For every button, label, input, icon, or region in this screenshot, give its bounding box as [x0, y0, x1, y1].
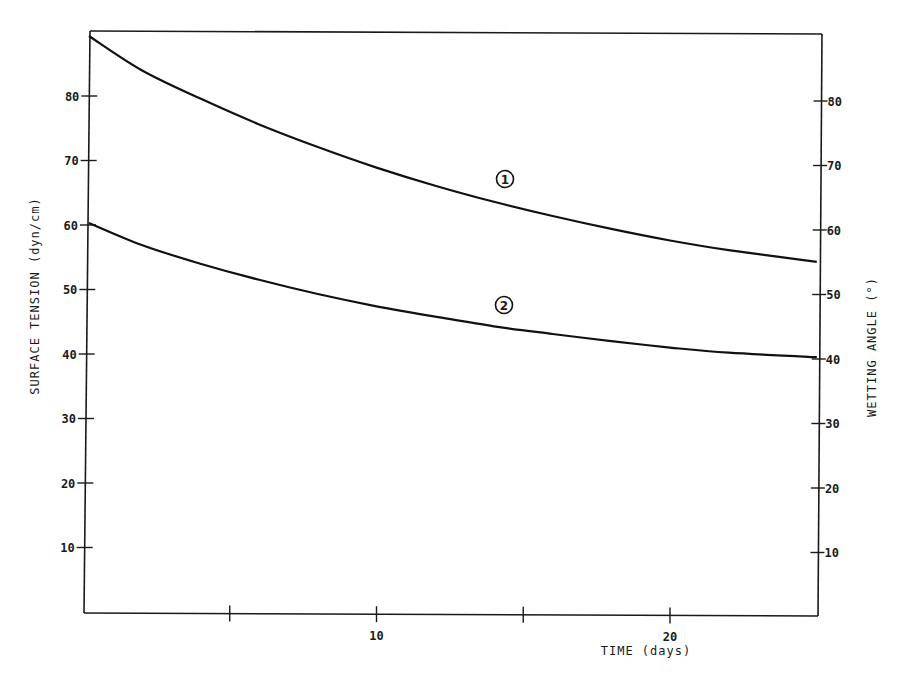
y-axis-title: SURFACE TENSION (dyn/cm)	[28, 197, 42, 394]
x-tick-label: 20	[663, 630, 677, 644]
right-tick-label: 60	[827, 224, 841, 238]
right-tick-label: 80	[828, 95, 842, 109]
bottom-axis	[84, 613, 818, 616]
right-tick-label: 30	[825, 417, 839, 431]
left-axis	[84, 31, 90, 613]
right-tick-label: 70	[827, 159, 841, 173]
left-tick-label: 60	[64, 219, 78, 233]
right-axis	[818, 34, 822, 616]
right-tick-label: 20	[825, 482, 839, 496]
right-tick-label: 10	[824, 546, 838, 560]
left-tick-label: 10	[60, 541, 74, 555]
left-tick-label: 80	[65, 90, 79, 104]
plot-frame	[84, 31, 822, 616]
right-tick-label: 50	[826, 288, 840, 302]
y-right-axis-title: WETTING ANGLE (°)	[865, 277, 879, 417]
top-border	[90, 31, 822, 34]
chart-figure: 1020304050607080 1020304050607080 1020 1…	[0, 0, 898, 678]
curve-2-marker: 2	[496, 297, 513, 314]
left-tick-label: 30	[62, 412, 76, 426]
left-tick-label: 20	[61, 477, 75, 491]
curve-1-marker: 1	[497, 171, 514, 188]
curves	[89, 36, 817, 357]
left-tick-label: 50	[63, 283, 77, 297]
curve-2-line	[89, 223, 817, 357]
x-axis-ticks: 1020	[230, 606, 677, 645]
left-tick-label: 40	[62, 348, 76, 362]
left-y-axis-ticks: 1020304050607080	[60, 90, 97, 556]
curve-1-marker-label: 1	[501, 173, 509, 187]
curve-2-marker-label: 2	[500, 299, 508, 313]
x-tick-label: 10	[369, 629, 383, 643]
left-tick-label: 70	[64, 154, 78, 168]
right-y-axis-ticks: 1020304050607080	[810, 95, 842, 561]
curve-1-line	[89, 36, 817, 262]
right-tick-label: 40	[826, 353, 840, 367]
x-axis-title: TIME (days)	[601, 644, 691, 658]
